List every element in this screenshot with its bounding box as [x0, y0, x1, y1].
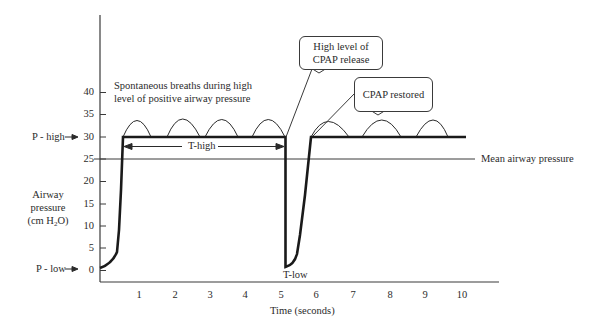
x-tick-label: 9 [415, 290, 435, 301]
p-high-label: P - high [32, 132, 65, 143]
x-tick-label: 3 [200, 290, 220, 301]
x-tick-label: 6 [306, 290, 326, 301]
callout-cpap-release: High level of CPAP release [299, 36, 383, 70]
spontaneous-note-line2: level of positive airway pressure [114, 92, 252, 105]
callout-release-notch-gap [312, 67, 326, 69]
callout-restored-notch-gap [371, 109, 385, 111]
spontaneous-breaths-note: Spontaneous breaths during high level of… [114, 79, 252, 105]
p-low-label: P - low [36, 264, 66, 275]
y-axis-title: Airway pressure (cm H2O) [18, 188, 78, 231]
pressure-waveform [100, 137, 466, 268]
x-tick-label: 5 [271, 290, 291, 301]
y-tick-label: 0 [74, 265, 94, 276]
callout-release-pointer [286, 69, 312, 137]
y-tick-label: 5 [74, 243, 94, 254]
x-tick-label: 4 [235, 290, 255, 301]
x-tick-label: 2 [165, 290, 185, 301]
y-tick-label: 40 [74, 87, 94, 98]
callout-restored-pointer [313, 93, 355, 136]
y-axis-title-line1: Airway [18, 188, 78, 201]
y-axis-title-line2: pressure [18, 201, 78, 214]
y-tick-marks [100, 93, 106, 271]
y-tick-label: 25 [74, 154, 94, 165]
callout-restored-text: CPAP restored [363, 88, 424, 101]
y-tick-label: 30 [74, 132, 94, 143]
y-tick-label: 35 [74, 109, 94, 120]
callout-release-line1: High level of [313, 40, 368, 53]
t-high-label: T-high [186, 141, 218, 152]
x-tick-label: 7 [343, 290, 363, 301]
callout-release-line2: CPAP release [313, 53, 370, 66]
spontaneous-breaths [123, 119, 448, 137]
callout-cpap-restored: CPAP restored [354, 77, 433, 112]
x-tick-label: 8 [380, 290, 400, 301]
x-tick-label: 10 [452, 290, 472, 301]
y-tick-label: 20 [74, 176, 94, 187]
y-axis-title-line3: (cm H2O) [18, 214, 78, 231]
x-axis-title: Time (seconds) [270, 306, 335, 317]
airway-pressure-chart [0, 0, 592, 332]
t-low-label: T-low [283, 270, 308, 281]
spontaneous-note-line1: Spontaneous breaths during high [114, 79, 252, 92]
x-tick-label: 1 [129, 290, 149, 301]
mean-airway-pressure-label: Mean airway pressure [481, 154, 574, 165]
